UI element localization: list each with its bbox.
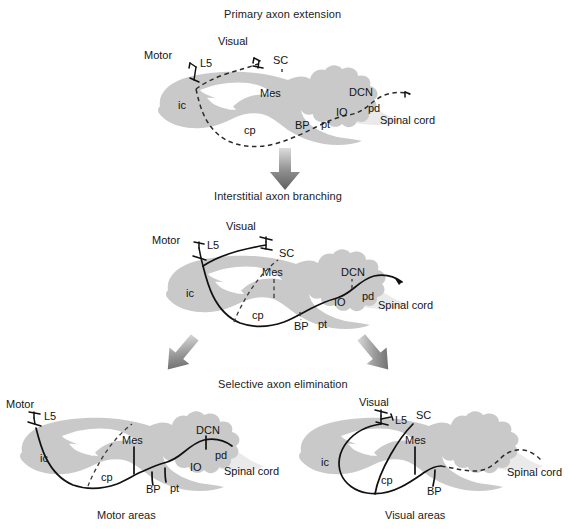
stage-2-diagram: Motor Visual L5 SC Mes ic cp BP pt IO DC…	[0, 208, 569, 338]
stage-2-title: Interstitial axon branching	[214, 190, 342, 202]
label-pt: pt	[318, 318, 327, 330]
label-spinal-cord: Spinal cord	[224, 465, 279, 477]
label-dcn: DCN	[341, 266, 365, 278]
label-pd: pd	[368, 102, 380, 114]
label-motor: Motor	[144, 49, 172, 61]
spinal-terminal-marker	[405, 92, 410, 97]
label-cp: cp	[244, 124, 256, 136]
label-bp: BP	[427, 485, 442, 497]
label-ic: ic	[40, 452, 48, 464]
label-io: IO	[334, 296, 346, 308]
label-visual: Visual	[359, 396, 389, 408]
label-pt: pt	[170, 482, 179, 494]
label-l5: L5	[395, 414, 407, 426]
label-visual: Visual	[226, 220, 256, 232]
label-visual: Visual	[218, 35, 248, 47]
label-mes: Mes	[405, 434, 426, 446]
label-spinal-cord: Spinal cord	[380, 114, 435, 126]
label-ic: ic	[186, 287, 194, 299]
label-dcn: DCN	[196, 424, 220, 436]
label-mes: Mes	[260, 87, 281, 99]
label-sc: SC	[416, 409, 431, 421]
label-cp: cp	[381, 474, 393, 486]
arrow-stage1-to-stage2	[255, 148, 315, 192]
label-l5: L5	[207, 239, 219, 251]
label-pd: pd	[215, 449, 227, 461]
label-ic: ic	[178, 99, 186, 111]
label-pd: pd	[362, 290, 374, 302]
label-sc: SC	[279, 247, 294, 259]
arrow-stage2-to-visual	[346, 330, 406, 380]
label-io: IO	[190, 461, 202, 473]
label-dcn: DCN	[349, 86, 373, 98]
stage-1-title: Primary axon extension	[224, 8, 341, 20]
label-mes: Mes	[262, 266, 283, 278]
label-motor: Motor	[152, 234, 180, 246]
visual-terminal-marker	[260, 237, 272, 250]
arrow-down-left-icon	[158, 330, 205, 378]
label-bp: BP	[146, 483, 161, 495]
arrow-stage2-to-motor	[150, 330, 210, 380]
label-ic: ic	[321, 456, 329, 468]
brain-silhouette	[299, 411, 518, 491]
arrow-down-right-icon	[351, 330, 398, 378]
axon-collateral-pt	[165, 468, 166, 482]
stage-1-diagram: Motor Visual L5 SC Mes ic cp BP pt IO DC…	[0, 28, 569, 168]
l5-terminal-motor	[28, 412, 41, 426]
label-spinal-cord: Spinal cord	[507, 466, 562, 478]
label-bp: BP	[295, 119, 310, 131]
label-mes: Mes	[122, 434, 143, 446]
label-l5: L5	[200, 57, 212, 69]
label-motor: Motor	[6, 398, 34, 410]
label-pt: pt	[321, 118, 330, 130]
stage-3-title: Selective axon elimination	[218, 378, 348, 390]
visual-terminal-marker	[253, 58, 263, 68]
stage-3-visual-panel: Visual L5 SC Mes ic cp BP Spinal cord	[279, 394, 569, 514]
label-io: IO	[336, 106, 348, 118]
stage-3-motor-panel: Motor L5 Mes ic cp BP pt IO DCN pd Spina…	[0, 394, 290, 514]
label-sc: SC	[273, 54, 288, 66]
figure-corticospinal-development: Primary axon extension	[0, 0, 569, 530]
caption-motor-areas: Motor areas	[97, 509, 156, 521]
label-cp: cp	[252, 309, 264, 321]
label-cp: cp	[101, 471, 113, 483]
caption-visual-areas: Visual areas	[385, 509, 445, 521]
label-spinal-cord: Spinal cord	[378, 299, 433, 311]
label-l5: L5	[44, 410, 56, 422]
label-bp: BP	[294, 320, 309, 332]
arrow-down-icon	[270, 148, 300, 190]
